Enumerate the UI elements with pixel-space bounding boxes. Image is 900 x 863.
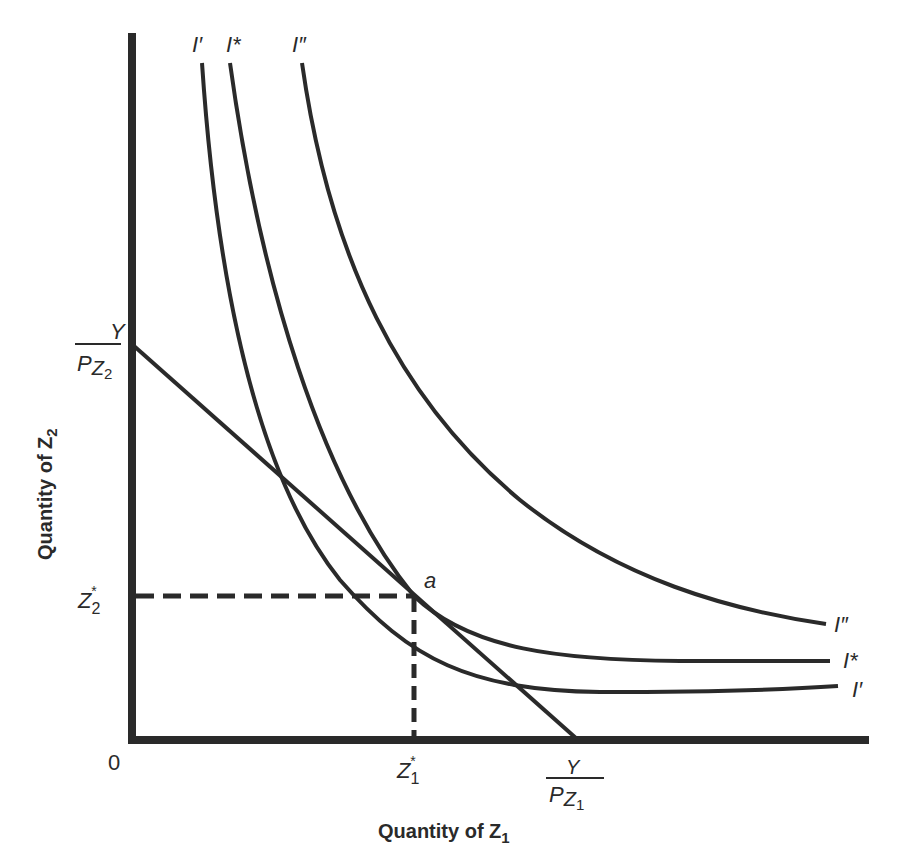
y-axis-title: Quantity of Z2 <box>34 428 60 560</box>
x-intercept-denominator: PZ1 <box>549 782 584 813</box>
x-axis-title: Quantity of Z1 <box>378 820 510 846</box>
tangency-point-label: a <box>424 568 436 593</box>
origin-label: 0 <box>108 750 120 775</box>
label-right-i-star: I* <box>843 648 859 673</box>
z1-star-label: Z1* <box>396 753 419 787</box>
label-right-i-prime: I′ <box>852 677 863 702</box>
y-intercept-denominator: PZ2 <box>77 351 112 382</box>
label-top-i-star: I* <box>226 32 242 57</box>
label-right-i-double-prime: I″ <box>834 612 849 637</box>
x-intercept-label: Y PZ1 <box>546 756 604 813</box>
budget-line <box>134 346 577 739</box>
y-intercept-label: Y PZ2 <box>75 319 126 382</box>
indifference-curve-i-double-prime <box>302 63 826 624</box>
x-intercept-numerator: Y <box>566 756 581 778</box>
label-top-i-prime: I′ <box>192 32 203 57</box>
indifference-curve-i-prime <box>202 63 838 692</box>
y-intercept-numerator: Y <box>110 319 126 344</box>
indifference-curve-diagram: I′ I* I″ I″ I* I′ a 0 Y PZ2 Z2* Z1* Y PZ… <box>0 0 900 863</box>
z2-star-label: Z2* <box>77 583 100 617</box>
label-top-i-double-prime: I″ <box>292 32 307 57</box>
